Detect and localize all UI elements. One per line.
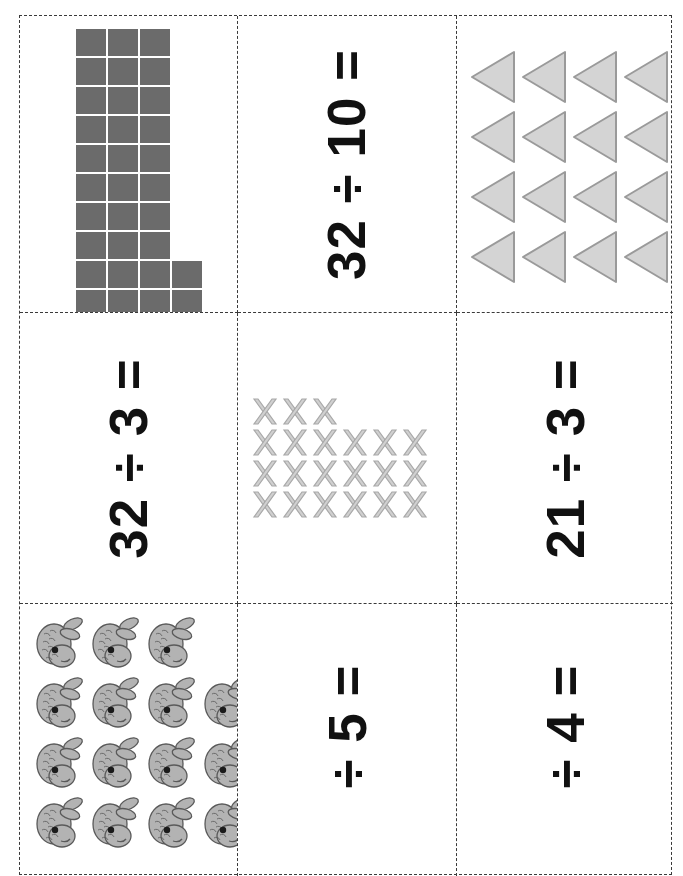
triangle-unit — [469, 108, 517, 165]
square-unit — [140, 174, 170, 201]
triangle-unit — [622, 48, 670, 105]
equation-21-div-3: 21 ÷ 3 = — [539, 358, 592, 559]
fish-unit — [142, 614, 198, 674]
square-unit — [108, 174, 138, 201]
square-unit — [108, 203, 138, 230]
x-mark-unit — [310, 397, 340, 428]
square-spacer — [172, 87, 202, 114]
flashcard-cell-9: ÷ 4 = — [457, 604, 673, 876]
triangle-unit — [520, 168, 568, 225]
square-unit — [76, 174, 106, 201]
flashcard-cell-2: 32 ÷ 10 = — [238, 16, 457, 313]
fish-unit — [86, 794, 142, 854]
fish-unit — [86, 674, 142, 734]
triangle-unit — [622, 168, 670, 225]
triangle-unit — [571, 48, 619, 105]
x-mark-unit — [340, 459, 370, 490]
square-unit — [76, 58, 106, 85]
square-unit — [140, 29, 170, 56]
square-spacer — [172, 174, 202, 201]
fish-unit — [198, 674, 238, 734]
square-unit — [108, 290, 138, 313]
fish-unit — [198, 794, 238, 854]
flashcard-sheet: 32 ÷ 10 = 32 ÷ 3 = 21 ÷ 3 = ÷ 5 = ÷ 4 = — [19, 15, 672, 875]
triangle-unit — [571, 168, 619, 225]
flashcard-cell-7 — [20, 604, 238, 876]
x-mark-unit — [250, 428, 280, 459]
square-unit — [108, 232, 138, 259]
square-unit — [140, 290, 170, 313]
square-unit — [140, 116, 170, 143]
fish-array — [30, 614, 238, 854]
square-spacer — [172, 203, 202, 230]
square-spacer — [172, 58, 202, 85]
x-mark-unit — [310, 490, 340, 521]
equation-div-4: ÷ 4 = — [539, 665, 592, 789]
square-spacer — [172, 145, 202, 172]
square-unit — [140, 232, 170, 259]
triangle-unit — [469, 228, 517, 285]
flashcard-cell-3 — [457, 16, 673, 313]
x-mark-unit — [400, 490, 430, 521]
triangle-unit — [622, 228, 670, 285]
square-unit — [108, 145, 138, 172]
flashcard-cell-1 — [20, 16, 238, 313]
square-array-32 — [76, 29, 202, 313]
x-mark-unit — [280, 490, 310, 521]
square-spacer — [172, 29, 202, 56]
square-unit — [140, 145, 170, 172]
square-unit — [140, 87, 170, 114]
square-unit — [76, 145, 106, 172]
fish-unit — [142, 794, 198, 854]
square-unit — [172, 290, 202, 313]
square-unit — [76, 29, 106, 56]
triangle-unit — [622, 108, 670, 165]
triangle-unit — [520, 228, 568, 285]
triangle-array-16 — [469, 48, 670, 285]
square-unit — [76, 87, 106, 114]
square-unit — [140, 58, 170, 85]
x-array-21 — [250, 397, 430, 521]
x-mark-unit — [280, 459, 310, 490]
x-mark-unit — [370, 459, 400, 490]
flashcard-cell-8: ÷ 5 = — [238, 604, 457, 876]
x-mark-unit — [340, 490, 370, 521]
x-mark-unit — [310, 428, 340, 459]
fish-unit — [30, 674, 86, 734]
x-mark-unit — [400, 428, 430, 459]
square-unit — [108, 116, 138, 143]
square-spacer — [172, 232, 202, 259]
square-unit — [108, 29, 138, 56]
x-mark-unit — [250, 459, 280, 490]
x-mark-unit — [280, 397, 310, 428]
flashcard-cell-5 — [238, 313, 457, 604]
square-unit — [76, 290, 106, 313]
triangle-unit — [520, 108, 568, 165]
equation-div-5: ÷ 5 = — [321, 665, 374, 789]
flashcard-cell-6: 21 ÷ 3 = — [457, 313, 673, 604]
square-unit — [140, 261, 170, 288]
fish-unit — [30, 734, 86, 794]
flashcard-cell-4: 32 ÷ 3 = — [20, 313, 238, 604]
triangle-unit — [571, 228, 619, 285]
triangle-unit — [469, 48, 517, 105]
fish-unit — [142, 674, 198, 734]
x-mark-unit — [310, 459, 340, 490]
equation-32-div-10: 32 ÷ 10 = — [321, 48, 374, 279]
fish-unit — [86, 734, 142, 794]
x-mark-unit — [370, 428, 400, 459]
fish-unit — [198, 734, 238, 794]
triangle-unit — [520, 48, 568, 105]
square-unit — [108, 87, 138, 114]
x-mark-unit — [370, 490, 400, 521]
fish-unit — [30, 794, 86, 854]
triangle-unit — [469, 168, 517, 225]
x-mark-unit — [250, 490, 280, 521]
triangle-unit — [571, 108, 619, 165]
equation-32-div-3: 32 ÷ 3 = — [102, 358, 155, 559]
square-spacer — [172, 116, 202, 143]
x-mark-unit — [250, 397, 280, 428]
x-mark-unit — [280, 428, 310, 459]
square-unit — [108, 261, 138, 288]
square-unit — [76, 116, 106, 143]
